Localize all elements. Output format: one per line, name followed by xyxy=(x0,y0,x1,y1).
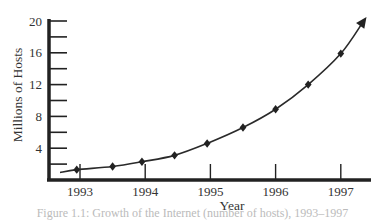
series-line xyxy=(60,21,364,172)
y-tick-label: 16 xyxy=(29,45,43,60)
data-point-marker xyxy=(171,151,178,159)
x-tick-label: 1993 xyxy=(67,184,93,199)
hosts-growth-chart: 48121620 Millions of Hosts 1993199419951… xyxy=(0,0,385,220)
data-point-marker xyxy=(240,123,247,131)
y-tick-label: 20 xyxy=(29,14,42,29)
data-point-marker xyxy=(272,105,279,113)
figure-caption: Figure 1.1: Growth of the Internet (numb… xyxy=(0,206,385,220)
x-tick-label: 1994 xyxy=(132,184,159,199)
data-point-marker xyxy=(139,158,146,166)
y-tick-label: 4 xyxy=(36,141,43,156)
data-point-marker xyxy=(73,165,80,173)
series-internet-hosts xyxy=(60,17,366,174)
data-point-marker xyxy=(204,139,211,147)
trend-arrow-icon xyxy=(356,17,366,29)
y-tick-label: 8 xyxy=(36,109,43,124)
y-axis-title: Millions of Hosts xyxy=(10,48,25,143)
x-tick-label: 1995 xyxy=(197,184,223,199)
y-tick-label: 12 xyxy=(29,77,42,92)
y-axis: 48121620 Millions of Hosts xyxy=(10,14,67,182)
x-tick-label: 1997 xyxy=(328,184,355,199)
x-tick-label: 1996 xyxy=(263,184,290,199)
data-point-marker xyxy=(109,162,116,170)
